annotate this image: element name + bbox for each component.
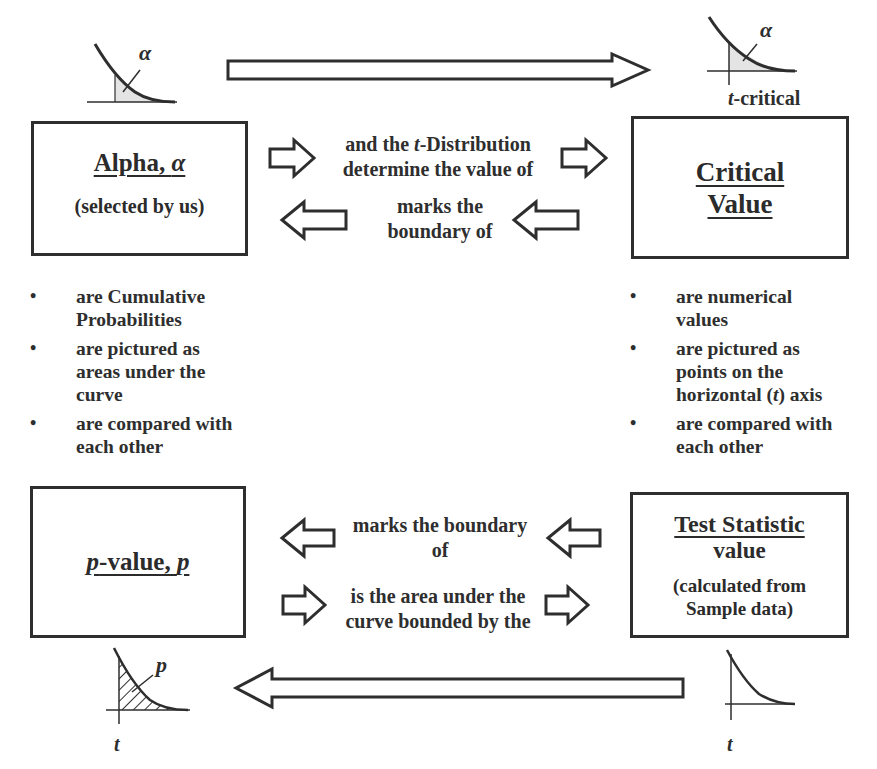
connector-top-left-text: marks the boundary of: [360, 194, 520, 244]
alpha-properties-list: are CumulativeProbabilities are pictured…: [28, 285, 288, 464]
distribution-curve-icon: [725, 650, 815, 720]
arrow-right-icon: [560, 138, 610, 182]
arrow-left-icon: [234, 667, 689, 707]
connector-bottom-left-text: marks the boundary of: [335, 513, 545, 563]
arrow-right-icon: [226, 52, 656, 92]
list-item: are pictured aspoints on thehorizontal (…: [628, 337, 877, 406]
list-item: are pictured asareas under thecurve: [28, 337, 288, 406]
arrow-right-icon: [544, 585, 594, 629]
critical-title-line1: Critical: [696, 156, 784, 188]
critical-title-line2: Value: [707, 188, 772, 220]
arrow-left-icon: [280, 200, 350, 244]
distribution-curve-icon: [85, 40, 185, 110]
connector-bottom-right-text: is the area under the curve bounded by t…: [328, 584, 548, 634]
distribution-curve-icon: [104, 648, 194, 718]
critical-properties-list: are numericalvalues are pictured aspoint…: [628, 285, 877, 464]
t-axis-label-left: t: [114, 733, 120, 756]
test-statistic-box: Test Statistic value (calculated from Sa…: [630, 492, 849, 638]
alpha-subtitle: (selected by us): [75, 193, 205, 219]
arrow-left-icon: [280, 518, 340, 562]
critical-value-box: Critical Value: [631, 116, 849, 259]
list-item: are CumulativeProbabilities: [28, 285, 288, 331]
test-statistic-title: Test Statistic: [674, 510, 804, 538]
connector-top-right-text: and the t-Distribution determine the val…: [318, 132, 558, 182]
distribution-curve-icon: [705, 15, 805, 85]
arrow-right-icon: [281, 585, 331, 629]
test-statistic-value-label: value: [713, 538, 765, 564]
t-axis-label-right: t: [727, 733, 733, 756]
alpha-title: Alpha, α: [94, 147, 186, 179]
list-item: are compared witheach other: [28, 412, 288, 458]
list-item: are numericalvalues: [628, 285, 877, 331]
arrow-left-icon: [512, 200, 582, 244]
alpha-figure-label-critical: α: [760, 17, 772, 43]
alpha-box: Alpha, α (selected by us): [31, 121, 248, 256]
p-value-box: p-value, p: [30, 486, 246, 638]
p-figure-label: p: [156, 652, 167, 678]
t-critical-caption: t-critical: [728, 87, 800, 110]
alpha-figure-label: α: [139, 40, 151, 66]
p-value-title: p-value, p: [87, 546, 190, 578]
arrow-left-icon: [546, 518, 606, 562]
arrow-right-icon: [268, 138, 318, 182]
list-item: are compared witheach other: [628, 412, 877, 458]
